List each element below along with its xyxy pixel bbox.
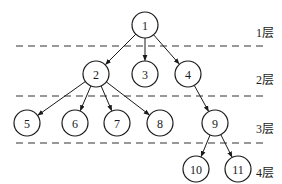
node-label: 6 <box>72 117 78 131</box>
tree-node-10: 10 <box>183 156 209 182</box>
tree-diagram: 1234567891011 1层2层3层4层 <box>0 0 282 184</box>
edge-1-2 <box>106 34 136 64</box>
layer-label-2: 2层 <box>256 73 274 87</box>
tree-node-1: 1 <box>132 12 158 38</box>
layer-label-3: 3层 <box>256 122 274 136</box>
tree-node-2: 2 <box>83 61 109 87</box>
node-label: 9 <box>212 117 218 131</box>
edge-2-7 <box>101 86 112 111</box>
tree-node-5: 5 <box>14 110 40 136</box>
tree-node-11: 11 <box>225 156 251 182</box>
node-label: 10 <box>190 163 202 177</box>
tree-node-7: 7 <box>104 110 130 136</box>
node-label: 5 <box>24 117 30 131</box>
node-label: 4 <box>185 68 191 82</box>
node-label: 3 <box>142 68 148 82</box>
tree-node-6: 6 <box>62 110 88 136</box>
edge-4-9 <box>194 85 208 111</box>
node-label: 8 <box>157 117 163 131</box>
tree-node-4: 4 <box>175 61 201 87</box>
edge-9-11 <box>221 135 232 157</box>
edge-9-10 <box>201 135 210 157</box>
layer-label-4: 4层 <box>256 166 274 180</box>
edge-1-4 <box>154 35 180 64</box>
node-label: 1 <box>142 19 148 33</box>
node-label: 7 <box>114 117 120 131</box>
layer-dividers <box>16 46 268 143</box>
layer-labels: 1层2层3层4层 <box>256 26 274 180</box>
tree-node-3: 3 <box>132 61 158 87</box>
node-label: 2 <box>93 68 99 82</box>
layer-label-1: 1层 <box>256 26 274 40</box>
tree-node-9: 9 <box>202 110 228 136</box>
node-label: 11 <box>232 163 244 177</box>
tree-node-8: 8 <box>147 110 173 136</box>
edge-2-6 <box>80 86 91 111</box>
